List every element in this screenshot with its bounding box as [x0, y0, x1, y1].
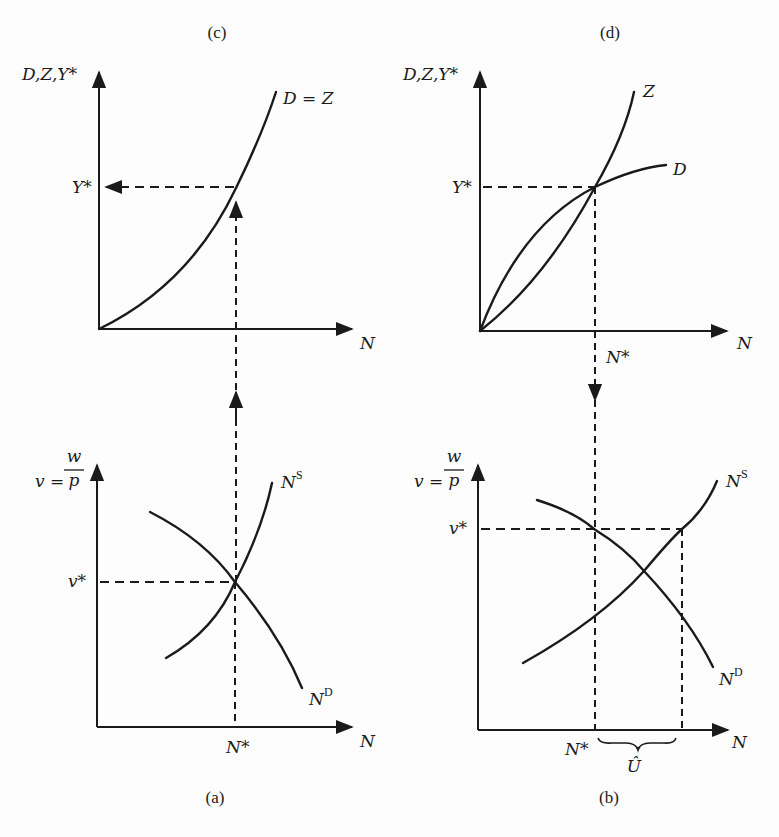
panel-b-u-hat-label: Û: [627, 756, 642, 776]
panel-d: (d) D,Z,Y* N Z D Y* N*: [402, 23, 753, 400]
panel-d-d-label: D: [672, 159, 687, 179]
panel-b-y-axis-label-lhs: v =: [414, 471, 443, 491]
panel-b-unemployment-brace: [598, 738, 676, 750]
panel-c-y-star-label: Y*: [72, 177, 92, 197]
panel-d-x-axis-label: N: [736, 333, 753, 353]
panel-c: (c) D,Z,Y* N D = Z Y*: [21, 23, 376, 353]
panel-a-supply-label: N: [280, 472, 297, 492]
panel-a-supply-sup: S: [296, 468, 303, 482]
panel-a-n-star-label: N*: [225, 737, 250, 757]
panel-b: v = w p N N S N D v* N* Û (b): [414, 446, 748, 807]
panel-b-demand-sup: D: [734, 665, 743, 679]
panel-b-caption: (b): [599, 788, 619, 807]
panel-a-y-axis-label-denominator: p: [69, 470, 80, 490]
panel-a-demand-sup: D: [324, 685, 333, 699]
panel-b-supply-label: N: [725, 471, 742, 491]
panel-a: v = w p N N S N D v* N* (a): [35, 446, 376, 807]
panel-a-demand-label: N: [308, 689, 325, 709]
panel-b-v-star-label: v*: [449, 518, 468, 538]
panel-c-x-axis-label: N: [359, 333, 376, 353]
panel-a-x-axis-label: N: [359, 731, 376, 751]
panel-b-y-axis-label-denominator: p: [449, 470, 460, 490]
panel-a-supply-curve: [166, 483, 272, 658]
panel-b-n-star-label: N*: [564, 739, 589, 759]
panel-b-supply-curve: [523, 481, 717, 663]
panel-a-y-axis-label-numerator: w: [67, 446, 82, 466]
panel-d-y-star-label: Y*: [452, 177, 472, 197]
panel-c-caption: (c): [208, 23, 227, 42]
economics-four-panel-diagram: (c) D,Z,Y* N D = Z Y* (d) D,Z,Y* N Z D Y…: [0, 0, 779, 837]
panel-d-caption: (d): [600, 23, 620, 42]
panel-a-caption: (a): [206, 788, 225, 807]
panel-b-demand-label: N: [718, 669, 735, 689]
panel-c-curve-label: D = Z: [282, 88, 335, 108]
panel-d-z-label: Z: [642, 81, 656, 101]
panel-a-y-axis-label-lhs: v =: [35, 471, 64, 491]
panel-c-y-axis-label: D,Z,Y*: [21, 64, 78, 84]
panel-b-supply-sup: S: [741, 467, 748, 481]
panel-b-y-axis-label-numerator: w: [447, 446, 462, 466]
panel-b-x-axis-label: N: [731, 732, 748, 752]
panel-d-n-star-label: N*: [605, 347, 630, 367]
panel-a-v-star-label: v*: [68, 571, 87, 591]
panel-c-curve-d-equals-z: [99, 92, 276, 329]
panel-d-y-axis-label: D,Z,Y*: [402, 64, 459, 84]
